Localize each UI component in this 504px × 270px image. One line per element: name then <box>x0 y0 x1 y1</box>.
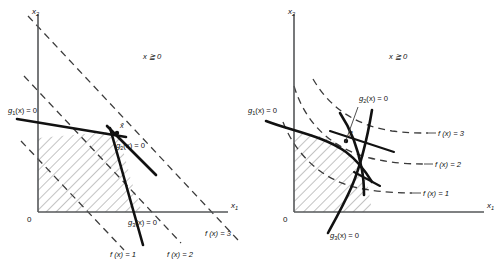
right-panel: x2 x1 0 x ≧ 0 g1(x) = 0 g2(x) = 0 g3(x) … <box>248 7 494 241</box>
contour-f2-label-right: f (x) = 2 <box>435 160 462 169</box>
two-panel-optimization-diagram: x2 x1 0 x ≧ 0 g1(x) = 0 g2(x) = 0 g3(x) … <box>0 0 504 270</box>
constraint-g1-label-left: g1(x) = 0 <box>8 106 37 116</box>
optimum-label-left: x̂ <box>119 121 124 130</box>
origin-label-right: 0 <box>283 215 288 224</box>
constraint-g2-label-right: g2(x) = 0 <box>359 94 388 104</box>
contour-f2-label-left: f (x) = 2 <box>167 250 194 259</box>
nonneg-label-right: x ≧ 0 <box>388 52 408 61</box>
optimum-label-right: x̂ <box>348 129 353 138</box>
constraint-g3-label-left: g3(x) = 0 <box>128 218 157 228</box>
nonneg-label-left: x ≧ 0 <box>142 52 162 61</box>
constraint-g3-label-right: g3(x) = 0 <box>330 231 359 241</box>
contour-f1-label-right: f (x) = 1 <box>423 189 449 198</box>
contour-f3-label-left: f (x) = 3 <box>205 229 232 238</box>
optimum-point-left <box>115 131 119 135</box>
constraint-g1-label-right: g1(x) = 0 <box>248 106 277 116</box>
origin-label-left: 0 <box>27 215 32 224</box>
y-axis-label-left: x2 <box>31 7 40 17</box>
x-axis-label-right: x1 <box>486 201 494 211</box>
y-axis-label-right: x2 <box>287 7 296 17</box>
figure-container: x2 x1 0 x ≧ 0 g1(x) = 0 g2(x) = 0 g3(x) … <box>0 0 504 270</box>
left-panel: x2 x1 0 x ≧ 0 g1(x) = 0 g2(x) = 0 g3(x) … <box>8 7 238 259</box>
contour-f3-label-right: f (x) = 3 <box>438 129 465 138</box>
objective-contours-left <box>21 16 238 250</box>
contour-f1-label-left: f (x) = 1 <box>110 250 136 259</box>
x-axis-label-left: x1 <box>230 201 238 211</box>
